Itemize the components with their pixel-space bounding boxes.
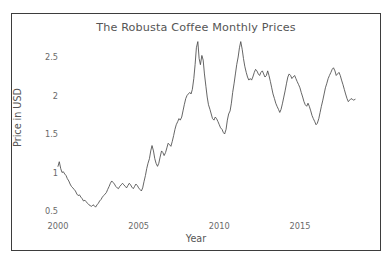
y-tick-label: 1.5 <box>28 129 58 139</box>
y-tick-label: 1 <box>28 168 58 178</box>
chart-title: The Robusta Coffee Monthly Prices <box>0 21 392 34</box>
x-tick-label: 2000 <box>33 221 83 231</box>
x-tick-label: 2010 <box>194 221 244 231</box>
x-axis-tick-labels: 2000200520102015 <box>0 221 392 235</box>
y-tick-label: 2 <box>28 91 58 101</box>
figure-border <box>11 13 381 251</box>
x-tick-label: 2015 <box>275 221 325 231</box>
x-tick-label: 2005 <box>114 221 164 231</box>
chart-figure: The Robusta Coffee Monthly Prices Price … <box>0 0 392 264</box>
y-tick-label: 2.5 <box>28 52 58 62</box>
y-tick-label: 0.5 <box>28 206 58 216</box>
